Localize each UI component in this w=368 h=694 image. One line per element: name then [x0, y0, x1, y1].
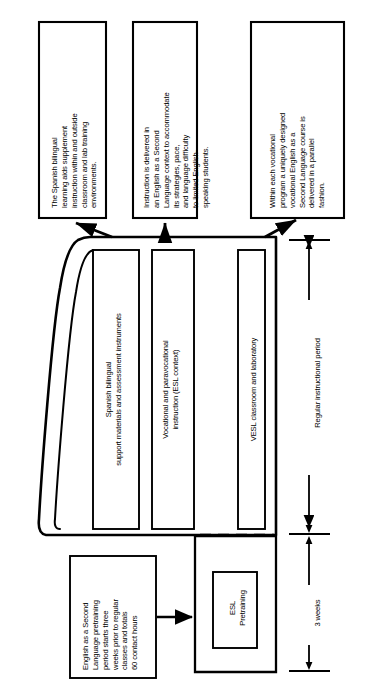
scale-label-three-weeks: 3 weeks: [313, 583, 323, 643]
program-model-diagram: The Spanish bilingual learning aids supp…: [0, 0, 368, 694]
callout-text-learning-aids: The Spanish bilingual learning aids supp…: [50, 30, 99, 208]
callout-text-esl-context: Instruction is delivered in an English a…: [142, 30, 211, 208]
esl-pretraining-label: ESL Pretraining: [228, 575, 248, 641]
component-text-vocational-instruction: Vocational and paravocational instructio…: [161, 257, 181, 522]
scale-arrowhead-weeks-top: [306, 536, 313, 544]
callout-text-vesl-parallel: Within each vocational program a uniquel…: [268, 30, 327, 208]
scale-arrowhead-regular-top: [306, 241, 313, 249]
arrow-to-callout-3: [265, 220, 296, 237]
pretraining-note-text: English as a Second Language pretraining…: [81, 562, 140, 670]
arrow-to-callout-1: [76, 223, 112, 237]
component-text-vesl-classroom: VESL classroom and laboratory: [249, 257, 259, 522]
scale-arrowhead-regular-bottom: [306, 525, 313, 533]
component-text-support-materials: Spanish bilingual support materials and …: [104, 257, 124, 522]
scale-arrowhead-weeks-bottom: [306, 662, 313, 670]
scale-label-regular-instructional-period: Regular instructional period: [313, 293, 323, 473]
